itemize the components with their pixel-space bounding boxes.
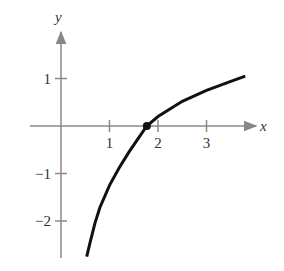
function-curve <box>87 76 246 257</box>
x-tick-label: 2 <box>154 135 162 151</box>
graph: 1231−1−2 x y <box>0 0 284 271</box>
y-tick-label: −1 <box>35 166 51 182</box>
x-tick-label: 1 <box>106 135 114 151</box>
y-tick-label: −2 <box>35 213 51 229</box>
x-intercept-point <box>143 122 151 130</box>
x-tick-label: 3 <box>203 135 211 151</box>
y-tick-label: 1 <box>44 71 52 87</box>
x-axis-label: x <box>259 118 267 134</box>
y-axis-label: y <box>53 9 62 25</box>
